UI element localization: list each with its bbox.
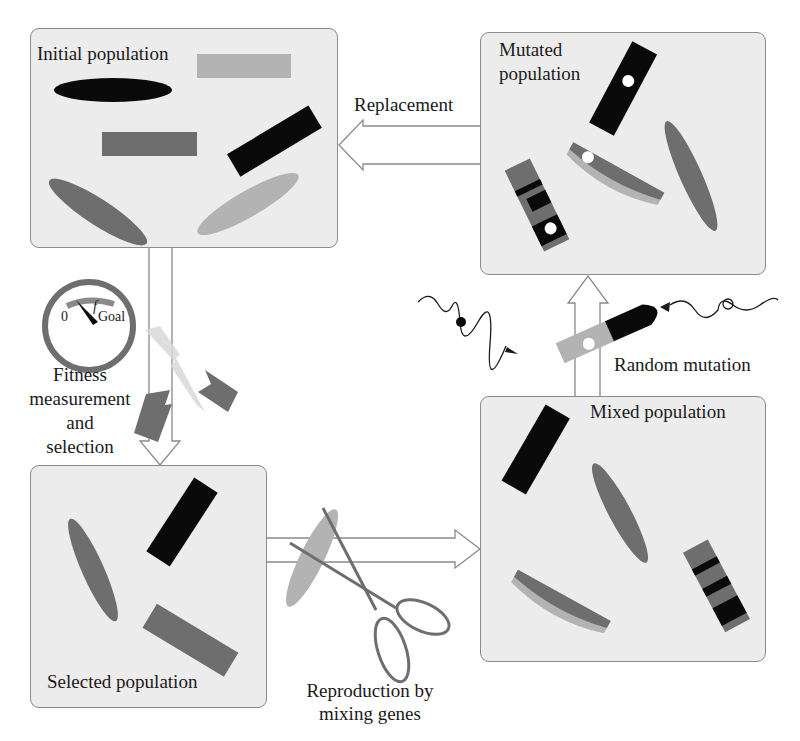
fitness-label-line1: Fitness [30,364,130,386]
mutated-population-label-line1: Mutated [499,39,562,61]
reproduction-label-line2: mixing genes [280,703,460,725]
gauge-min-label: 0 [61,306,68,328]
mutated-population-label-line2: population [499,63,580,85]
initial-population-label: Initial population [37,43,168,65]
lightgray-rect [197,54,291,78]
black-ellipse [54,78,172,102]
replacement-arrow [339,120,480,170]
replacement-label: Replacement [354,94,453,116]
fitness-label-line2: measurement [20,388,140,410]
darkgray-ellipse [42,170,153,255]
selected-population-label: Selected population [47,671,197,693]
black-rect [227,105,322,176]
gauge-symbol: f [93,296,97,318]
random-mutation-label: Random mutation [614,354,751,376]
fitness-label-line4: selection [30,436,130,458]
mixed-population-label: Mixed population [590,401,726,423]
fitness-label-line3: and [30,412,130,434]
lightgray-ellipse [191,164,304,245]
darkgray-rect [102,132,197,156]
gauge-max-label: Goal [98,306,125,328]
mutated-darkgray-ellipse [657,117,726,236]
reproduction-label-line1: Reproduction by [280,680,460,702]
